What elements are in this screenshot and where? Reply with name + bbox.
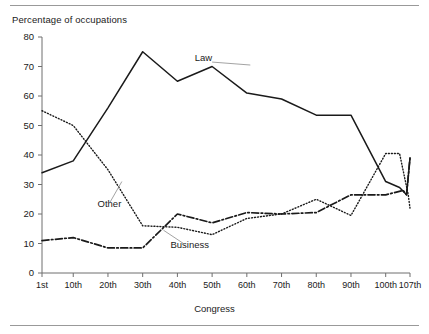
leader-line-law (212, 62, 250, 65)
x-tick-label: 100th (374, 280, 397, 290)
figure-container: Percentage of occupations Congress 01020… (0, 0, 429, 334)
x-tick-label: 70th (273, 280, 291, 290)
line-chart: 01020304050607080 1st10th20th30th40th50t… (0, 0, 429, 334)
y-tick-label: 70 (23, 61, 34, 72)
series-line-law (42, 52, 410, 195)
x-tick-labels: 1st10th20th30th40th50th60th70th80th90th1… (36, 280, 421, 290)
y-tick-label: 30 (23, 179, 34, 190)
x-tick-label: 90th (342, 280, 360, 290)
y-tick-label: 10 (23, 238, 34, 249)
series-lines (42, 52, 410, 248)
x-tick-label: 20th (99, 280, 117, 290)
series-label-business: Business (170, 239, 209, 250)
x-tick-label: 10th (64, 280, 82, 290)
x-tick-label: 107th (399, 280, 422, 290)
x-tick-label: 80th (307, 280, 325, 290)
y-tick-label: 50 (23, 120, 34, 131)
x-tick-label: 1st (36, 280, 49, 290)
series-line-other (42, 111, 410, 235)
y-tick-label: 20 (23, 208, 34, 219)
x-tick-label: 40th (169, 280, 187, 290)
x-tick-label: 50th (203, 280, 221, 290)
y-tick-label: 80 (23, 31, 34, 42)
series-annotations: LawOtherBusiness (98, 52, 251, 250)
y-tick-label: 0 (29, 267, 34, 278)
series-label-other: Other (98, 198, 122, 209)
x-tick-label: 60th (238, 280, 256, 290)
y-tick-label: 40 (23, 149, 34, 160)
y-tick-labels: 01020304050607080 (23, 31, 34, 278)
series-label-law: Law (195, 52, 213, 63)
x-tick-label: 30th (134, 280, 152, 290)
axes (38, 37, 410, 277)
y-tick-label: 60 (23, 90, 34, 101)
